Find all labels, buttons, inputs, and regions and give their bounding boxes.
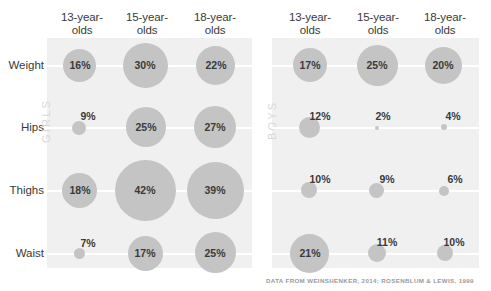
girls-column-header-18-line2: olds xyxy=(182,24,248,37)
boys-value-thighs-15: 9% xyxy=(367,173,407,185)
bubble-chart-figure: 13-year- olds 15-year- olds 18-year- old… xyxy=(0,0,491,291)
boys-column-header-13-line1: 13-year- xyxy=(277,11,343,24)
girls-bubble-hips-13 xyxy=(72,121,86,135)
boys-value-weight-15: 25% xyxy=(357,59,397,71)
girls-value-weight-13: 16% xyxy=(60,59,100,71)
boys-column-header-15-line1: 15-year- xyxy=(345,11,411,24)
girls-column-header-18: 18-year- olds xyxy=(182,11,248,37)
girls-value-thighs-15: 42% xyxy=(125,184,165,196)
boys-value-weight-13: 17% xyxy=(290,59,330,71)
boys-column-header-18-line2: olds xyxy=(412,24,478,37)
boys-column-header-18: 18-year- olds xyxy=(412,11,478,37)
boys-value-thighs-18: 6% xyxy=(435,173,475,185)
girls-column-header-13-line1: 13-year- xyxy=(49,11,115,24)
girls-column-header-13: 13-year- olds xyxy=(49,11,115,37)
girls-value-thighs-13: 18% xyxy=(60,184,100,196)
row-label-waist: Waist xyxy=(0,247,44,260)
row-label-weight: Weight xyxy=(0,59,44,72)
boys-value-hips-18: 4% xyxy=(433,110,473,122)
group-label-girls: GIRLS xyxy=(40,99,52,143)
girls-value-weight-18: 22% xyxy=(196,59,236,71)
boys-column-header-13-line2: olds xyxy=(277,24,343,37)
girls-value-hips-18: 27% xyxy=(195,121,235,133)
boys-bubble-thighs-15 xyxy=(369,183,384,198)
girls-column-header-15-line1: 15-year- xyxy=(114,11,180,24)
boys-value-waist-15: 11% xyxy=(367,236,407,248)
boys-bubble-hips-15 xyxy=(375,126,379,130)
girls-value-weight-15: 30% xyxy=(125,59,165,71)
girls-value-waist-13: 7% xyxy=(68,237,108,249)
girls-value-waist-15: 17% xyxy=(125,247,165,259)
girls-value-hips-13: 9% xyxy=(68,110,108,122)
boys-column-header-15: 15-year- olds xyxy=(345,11,411,37)
girls-value-thighs-18: 39% xyxy=(195,184,235,196)
boys-column-header-18-line1: 18-year- xyxy=(412,11,478,24)
boys-value-weight-18: 20% xyxy=(423,59,463,71)
girls-column-header-18-line1: 18-year- xyxy=(182,11,248,24)
girls-value-waist-18: 25% xyxy=(195,247,235,259)
girls-value-hips-15: 25% xyxy=(126,121,166,133)
boys-value-waist-18: 10% xyxy=(434,236,474,248)
boys-column-header-13: 13-year- olds xyxy=(277,11,343,37)
girls-column-header-13-line2: olds xyxy=(49,24,115,37)
source-attribution: DATA FROM WEINSHENKER, 2014; ROSENBLUM &… xyxy=(266,277,474,284)
row-label-thighs: Thighs xyxy=(0,184,44,197)
girls-column-header-15-line2: olds xyxy=(114,24,180,37)
girls-bubble-waist-13 xyxy=(74,248,85,259)
boys-value-hips-15: 2% xyxy=(363,110,403,122)
boys-bubble-thighs-18 xyxy=(439,186,449,196)
boys-column-header-15-line2: olds xyxy=(345,24,411,37)
boys-bubble-hips-18 xyxy=(441,124,447,130)
girls-column-header-15: 15-year- olds xyxy=(114,11,180,37)
boys-value-thighs-13: 10% xyxy=(300,173,340,185)
group-label-boys: BOYS xyxy=(266,101,278,140)
boys-value-waist-13: 21% xyxy=(290,247,330,259)
boys-value-hips-13: 12% xyxy=(300,110,340,122)
row-label-hips: Hips xyxy=(0,121,44,134)
